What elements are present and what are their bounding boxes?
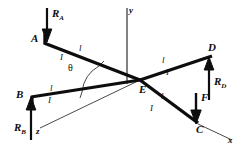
angle-label-theta: θ <box>68 63 73 73</box>
force-label-ra: RA <box>52 8 64 22</box>
axis-label-x: x <box>228 136 233 145</box>
force-rb-head <box>26 97 36 110</box>
joint-label-c: C <box>196 124 203 135</box>
segment-ed-inertia-label: I <box>166 68 169 77</box>
beam-segment-ed <box>140 56 212 80</box>
segment-ae-inertia-label: I <box>60 53 63 62</box>
force-label-rd-sub: D <box>221 82 226 90</box>
segment-ec-length-label: l <box>161 92 164 101</box>
beam-segment-ec <box>140 80 198 123</box>
axis-label-z: z <box>36 127 40 136</box>
force-label-rb-sub: B <box>21 128 26 136</box>
beam-segment-ae <box>44 43 140 80</box>
beam-b-e-d-group <box>31 56 212 105</box>
statics-beam-diagram: A B C D E RA RB RD F y z x θ l I l I l I… <box>0 0 237 149</box>
segment-ec-inertia-label: I <box>150 104 153 113</box>
force-label-f: F <box>201 92 208 106</box>
axis-label-y: y <box>129 6 133 15</box>
force-label-ra-sub: A <box>59 14 64 22</box>
segment-be-inertia-label: I <box>48 96 51 105</box>
beam-a-e-c-group <box>44 34 198 123</box>
segment-be-length-label: l <box>50 84 53 93</box>
theta-leader-lower <box>80 92 82 98</box>
joint-label-e: E <box>139 84 146 95</box>
joint-label-a: A <box>31 33 38 44</box>
coordinate-axes-group <box>40 8 232 140</box>
segment-ae-length-label: l <box>79 44 82 53</box>
segment-ed-length-label: l <box>162 56 165 65</box>
joint-label-d: D <box>208 42 216 53</box>
force-label-rb: RB <box>14 122 26 136</box>
force-label-f-base: F <box>201 91 208 103</box>
joint-label-b: B <box>16 89 23 100</box>
force-label-rd: RD <box>214 76 226 90</box>
